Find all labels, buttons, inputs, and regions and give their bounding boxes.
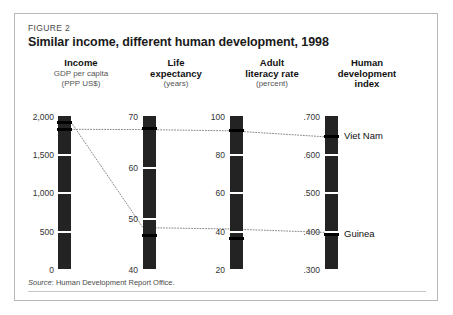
- marker-income-vietnam: [57, 128, 72, 131]
- chart-plot-area: 2,000 1,500 1,000 500 0 70 60 50 40 100 …: [15, 14, 439, 302]
- tick-hdi-700: .700: [282, 112, 320, 122]
- gridline-income-1000: [58, 192, 71, 194]
- tick-literacy-20: 20: [187, 265, 225, 275]
- axis-bar-life-expectancy: [143, 116, 156, 269]
- tick-hdi-300: .300: [282, 265, 320, 275]
- connector-lines: [15, 14, 439, 302]
- tick-literacy-40: 40: [187, 227, 225, 237]
- tick-income-1000: 1,000: [15, 188, 54, 198]
- gridline-income-500: [58, 231, 71, 233]
- tick-literacy-80: 80: [187, 150, 225, 160]
- figure-panel: FIGURE 2 Similar income, different human…: [14, 13, 438, 301]
- series-label-guinea: Guinea: [344, 228, 375, 239]
- tick-income-2000: 2,000: [15, 112, 54, 122]
- tick-income-0: 0: [15, 265, 54, 275]
- gridline-life-50: [143, 218, 156, 220]
- gridline-literacy-80: [230, 154, 243, 156]
- tick-income-500: 500: [15, 227, 54, 237]
- tick-life-60: 60: [100, 163, 138, 173]
- marker-life-guinea: [142, 234, 157, 237]
- marker-literacy-guinea: [229, 237, 244, 240]
- gridline-life-60: [143, 167, 156, 169]
- tick-literacy-100: 100: [187, 112, 225, 122]
- source-text: : Human Development Report Office.: [52, 278, 175, 287]
- series-label-vietnam: Viet Nam: [344, 130, 383, 141]
- source-divider: [28, 291, 426, 292]
- gridline-hdi-500: [325, 192, 338, 194]
- connector-vietnam: [71, 129, 325, 137]
- gridline-hdi-600: [325, 154, 338, 156]
- source-note: Source: Human Development Report Office.: [28, 278, 175, 287]
- tick-hdi-500: .500: [282, 188, 320, 198]
- gridline-literacy-60: [230, 192, 243, 194]
- tick-income-1500: 1,500: [15, 150, 54, 160]
- source-word: Source: [28, 278, 52, 287]
- marker-income-guinea: [57, 121, 72, 124]
- tick-life-50: 50: [100, 214, 138, 224]
- tick-hdi-400: .400: [282, 227, 320, 237]
- tick-literacy-60: 60: [187, 188, 225, 198]
- gridline-literacy-40: [230, 231, 243, 233]
- tick-hdi-600: .600: [282, 150, 320, 160]
- tick-life-70: 70: [100, 112, 138, 122]
- tick-life-40: 40: [100, 265, 138, 275]
- marker-literacy-vietnam: [229, 129, 244, 132]
- marker-life-vietnam: [142, 127, 157, 130]
- gridline-income-1500: [58, 154, 71, 156]
- marker-hdi-guinea: [324, 233, 339, 236]
- marker-hdi-vietnam: [324, 135, 339, 138]
